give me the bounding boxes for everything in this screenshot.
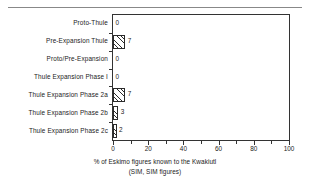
x-axis-caption-line-1: % of Eskimo figures known to the Kwakiut… xyxy=(0,157,310,167)
y-axis-tick xyxy=(109,122,113,123)
bar-row: 0 xyxy=(113,69,289,87)
y-axis-category-label: Proto-Thule xyxy=(0,19,108,26)
bar-value-label: 0 xyxy=(116,18,120,27)
x-axis-tick-label: 40 xyxy=(180,145,187,153)
y-axis-tick xyxy=(109,86,113,87)
x-axis-tick-label: 80 xyxy=(250,145,257,153)
bar xyxy=(113,106,118,120)
top-divider-rule xyxy=(8,7,302,8)
bar xyxy=(113,124,117,138)
x-axis-minor-tick xyxy=(236,141,237,144)
y-axis-category-label: Proto/Pre-Expansion xyxy=(0,55,108,62)
bar-value-label: 0 xyxy=(116,72,120,81)
bar-row: 7 xyxy=(113,33,289,51)
bar-row: 2 xyxy=(113,122,289,140)
y-axis-category-labels: Proto-ThulePre-Expansion ThuleProto/Pre-… xyxy=(0,14,108,141)
x-axis-minor-tick xyxy=(166,141,167,144)
x-axis-minor-tick xyxy=(271,141,272,144)
y-axis-tick xyxy=(109,69,113,70)
x-axis-tick-label: 0 xyxy=(111,145,115,153)
bar-value-label: 2 xyxy=(119,125,123,134)
bar-row: 0 xyxy=(113,51,289,69)
x-axis-tick-label: 20 xyxy=(145,145,152,153)
bar xyxy=(113,35,125,49)
bar-value-label: 3 xyxy=(121,107,125,116)
y-axis-category-label: Thule Expansion Phase 2a xyxy=(0,91,108,98)
y-axis-category-label: Thule Expansion Phase I xyxy=(0,73,108,80)
x-axis-minor-tick xyxy=(131,141,132,144)
bar-row: 0 xyxy=(113,15,289,33)
x-axis-minor-tick xyxy=(201,141,202,144)
x-axis-caption-line-2: (SIM, SIM figures) xyxy=(0,167,310,177)
bar-value-label: 0 xyxy=(116,54,120,63)
y-axis-tick xyxy=(109,104,113,105)
x-axis-caption: % of Eskimo figures known to the Kwakiut… xyxy=(0,157,310,176)
bar-row: 3 xyxy=(113,104,289,122)
y-axis-category-label: Thule Expansion Phase 2b xyxy=(0,109,108,116)
figure-container: Proto-ThulePre-Expansion ThuleProto/Pre-… xyxy=(0,0,310,184)
bar-value-label: 7 xyxy=(128,36,132,45)
y-axis-category-label: Pre-Expansion Thule xyxy=(0,37,108,44)
y-axis-tick xyxy=(109,51,113,52)
bars-layer: 0700732 xyxy=(113,15,289,140)
bar xyxy=(113,88,125,102)
x-axis-tick-label: 100 xyxy=(284,145,295,153)
x-axis-tick-labels: 020406080100 xyxy=(0,145,310,155)
bar-value-label: 7 xyxy=(128,89,132,98)
x-axis-tick-label: 60 xyxy=(215,145,222,153)
y-axis-category-label: Thule Expansion Phase 2c xyxy=(0,127,108,134)
bar-row: 7 xyxy=(113,86,289,104)
y-axis-tick xyxy=(109,33,113,34)
